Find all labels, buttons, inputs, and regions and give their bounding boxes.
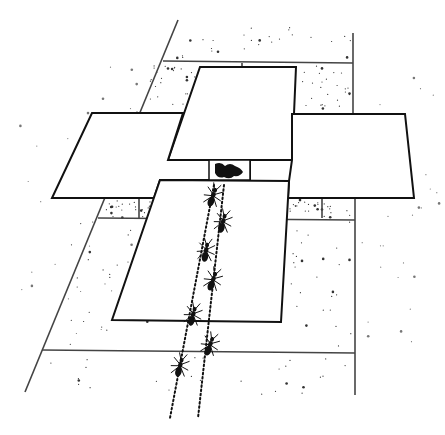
cards-group [52, 67, 414, 322]
food-patch [209, 160, 250, 180]
ant-icon [168, 351, 192, 379]
right-card [288, 114, 414, 198]
ant-trail-illustration [0, 0, 445, 435]
ant-icon [198, 330, 223, 359]
